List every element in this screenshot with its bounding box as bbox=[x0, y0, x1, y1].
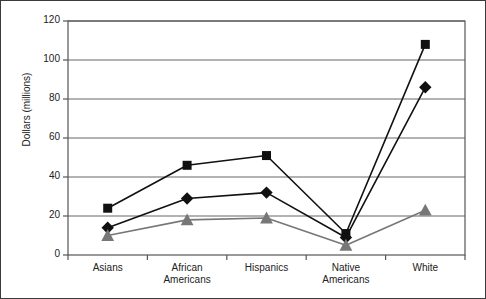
x-axis-ticks bbox=[68, 255, 465, 260]
series-1 bbox=[103, 40, 430, 238]
data-point-marker-diamond bbox=[419, 81, 431, 93]
data-point-marker-square bbox=[103, 204, 112, 213]
data-point-marker-square bbox=[421, 40, 430, 49]
data-point-marker-triangle bbox=[340, 239, 353, 251]
chart-container: Dollars (millions) 020406080100120 Asian… bbox=[0, 0, 486, 299]
plot-area bbox=[0, 0, 486, 299]
series-line bbox=[108, 44, 426, 233]
data-point-marker-diamond bbox=[181, 192, 193, 204]
series-3 bbox=[101, 204, 431, 251]
data-point-marker-diamond bbox=[260, 186, 272, 198]
data-point-marker-square bbox=[183, 161, 192, 170]
data-point-marker-square bbox=[262, 151, 271, 160]
y-axis-ticks bbox=[63, 21, 68, 255]
data-point-marker-triangle bbox=[419, 204, 432, 216]
